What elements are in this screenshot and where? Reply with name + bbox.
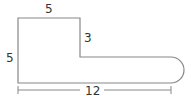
shape-diagram: 5 3 5 12	[0, 0, 191, 96]
label-total-length: 12	[85, 84, 100, 96]
label-left-height: 5	[6, 51, 14, 65]
label-notch-height: 3	[84, 31, 92, 45]
composite-shape-outline	[18, 18, 184, 83]
label-top-width: 5	[45, 2, 53, 16]
